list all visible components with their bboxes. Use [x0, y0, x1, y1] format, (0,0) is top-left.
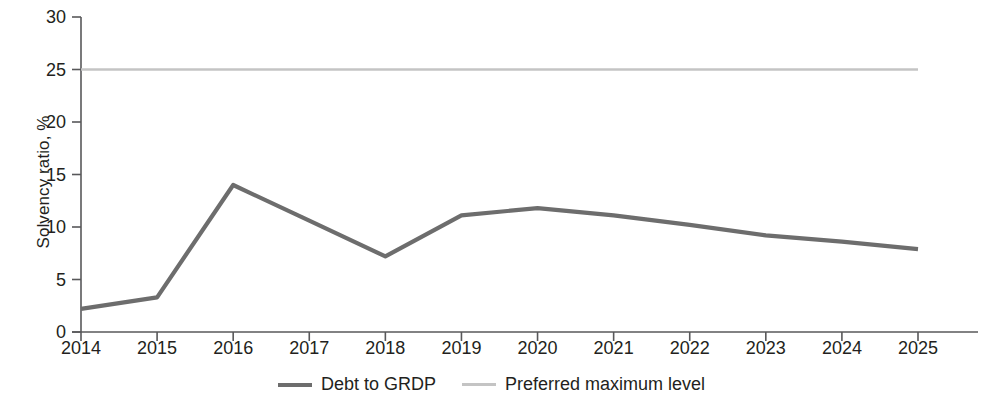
legend-item[interactable]: Preferred maximum level: [462, 374, 705, 395]
axis-lines: [72, 17, 978, 332]
chart-legend: Debt to GRDPPreferred maximum level: [0, 374, 983, 395]
legend-item[interactable]: Debt to GRDP: [278, 374, 436, 395]
series-line-debt-to-grdp: [81, 185, 918, 309]
plot-area: [0, 0, 983, 407]
legend-label: Preferred maximum level: [505, 374, 705, 395]
legend-swatch-icon: [278, 383, 312, 387]
legend-swatch-icon: [462, 383, 496, 386]
legend-label: Debt to GRDP: [321, 374, 436, 395]
chart-figure: Solvency ratio, % 051015202530 201420152…: [0, 0, 983, 407]
series-lines: [81, 70, 918, 309]
x-axis-ticks: [81, 332, 918, 341]
y-axis-ticks: [72, 17, 81, 332]
